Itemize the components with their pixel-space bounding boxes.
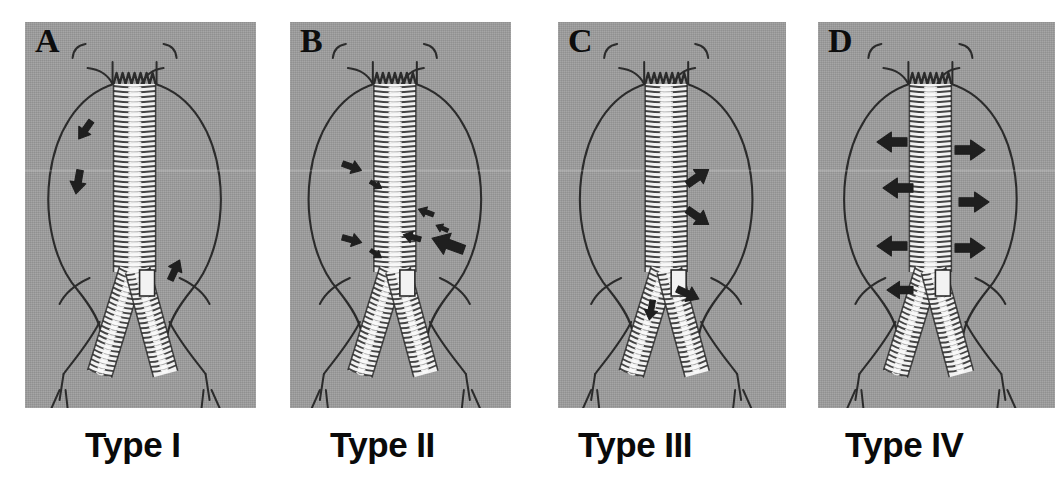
lumbar-branch-arrow-upper-right: [417, 204, 436, 219]
caption-type-3: Type III: [578, 425, 692, 465]
graft-main-body: [114, 84, 156, 272]
porosity-arrow-left-2: [883, 178, 913, 198]
panel-c: C: [558, 22, 786, 408]
panel-letter-a: A: [35, 24, 60, 58]
panel-d: D: [818, 22, 1055, 408]
panel-letter-c: C: [568, 24, 593, 58]
panel-a: A: [25, 22, 256, 408]
panel-letter-b: B: [300, 24, 323, 58]
proximal-attachment-leak-arrow: [73, 117, 98, 143]
porosity-arrow-left-1: [877, 132, 907, 152]
panel-letter-d: D: [828, 24, 853, 58]
porosity-arrow-right-1: [955, 140, 985, 160]
endoleak-classification-figure: ABCDType IType IIType IIIType IV: [0, 0, 1063, 493]
graft-main-body: [909, 84, 951, 272]
modular-docking-collar: [935, 270, 950, 296]
lumbar-branch-arrow-lower-left: [341, 231, 364, 249]
panel-b: B: [290, 22, 511, 408]
caption-type-4: Type IV: [845, 425, 963, 465]
sac-flow-arrow: [68, 169, 88, 195]
graft-main-body: [645, 84, 687, 272]
inferior-mesenteric-artery-arrow: [428, 228, 468, 261]
caption-type-1: Type I: [85, 425, 181, 465]
modular-docking-collar: [140, 270, 155, 296]
lumbar-branch-arrow-right-small: [434, 221, 449, 234]
porosity-arrow-right-2: [959, 192, 989, 212]
modular-docking-collar: [400, 270, 415, 296]
porosity-arrow-right-3: [955, 238, 985, 258]
porosity-arrow-left-3: [877, 236, 907, 256]
graft-main-body: [374, 84, 416, 272]
lumbar-branch-arrow-upper-left: [340, 157, 363, 176]
caption-type-2: Type II: [330, 425, 435, 465]
